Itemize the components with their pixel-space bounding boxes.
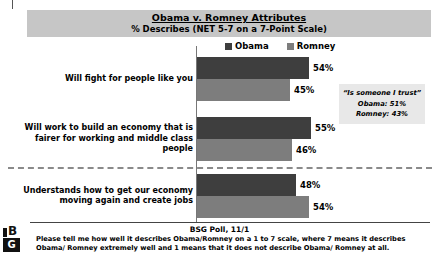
- legend: Obama Romney: [225, 41, 335, 51]
- romney-bar: [197, 79, 290, 101]
- bar-row-romney: 46%: [197, 139, 316, 161]
- value-label: 46%: [296, 145, 316, 155]
- legend-item-obama: Obama: [225, 41, 269, 51]
- value-label: 54%: [313, 202, 333, 212]
- value-label: 55%: [315, 123, 335, 133]
- corner-tick-mark: [12, 0, 13, 9]
- value-label: 54%: [313, 63, 333, 73]
- romney-bar: [197, 196, 309, 218]
- obama-swatch-icon: [225, 43, 232, 50]
- footer-divider: [30, 222, 430, 223]
- category-label: Will fight for people like you: [8, 57, 193, 101]
- category-label: Will work to build an economy that is fa…: [8, 117, 193, 161]
- value-label: 48%: [300, 180, 320, 190]
- romney-swatch-icon: [287, 43, 294, 50]
- bar-row-romney: 54%: [197, 196, 333, 218]
- category-label: Understands how to get our economy movin…: [8, 174, 193, 218]
- bar-row-romney: 45%: [197, 79, 314, 101]
- legend-label-romney: Romney: [297, 41, 336, 51]
- legend-item-romney: Romney: [287, 41, 336, 51]
- chart-subtitle: % Describes (NET 5-7 on a 7-Point Scale): [27, 24, 431, 34]
- obama-bar: [197, 117, 311, 139]
- bar-row-obama: 55%: [197, 117, 335, 139]
- bar-row-obama: 48%: [197, 174, 320, 196]
- romney-bar: [197, 139, 292, 161]
- title-banner: Obama v. Romney Attributes % Describes (…: [27, 10, 431, 37]
- chart-title: Obama v. Romney Attributes: [27, 12, 431, 23]
- logo-letter-g: G: [3, 238, 20, 252]
- section-divider: [8, 167, 432, 169]
- legend-label-obama: Obama: [235, 41, 269, 51]
- value-label: 45%: [294, 85, 314, 95]
- obama-bar: [197, 57, 309, 79]
- bar-row-obama: 54%: [197, 57, 333, 79]
- obama-bar: [197, 174, 296, 196]
- callout-line: Romney: 43%: [341, 109, 423, 120]
- callout-line: “Is someone I trust”: [341, 88, 423, 99]
- poll-source: BSG Poll, 11/1: [0, 225, 439, 234]
- methodology-note: Please tell me how well it describes Oba…: [36, 235, 428, 254]
- trust-callout: “Is someone I trust” Obama: 51% Romney: …: [339, 84, 425, 124]
- callout-line: Obama: 51%: [341, 99, 423, 110]
